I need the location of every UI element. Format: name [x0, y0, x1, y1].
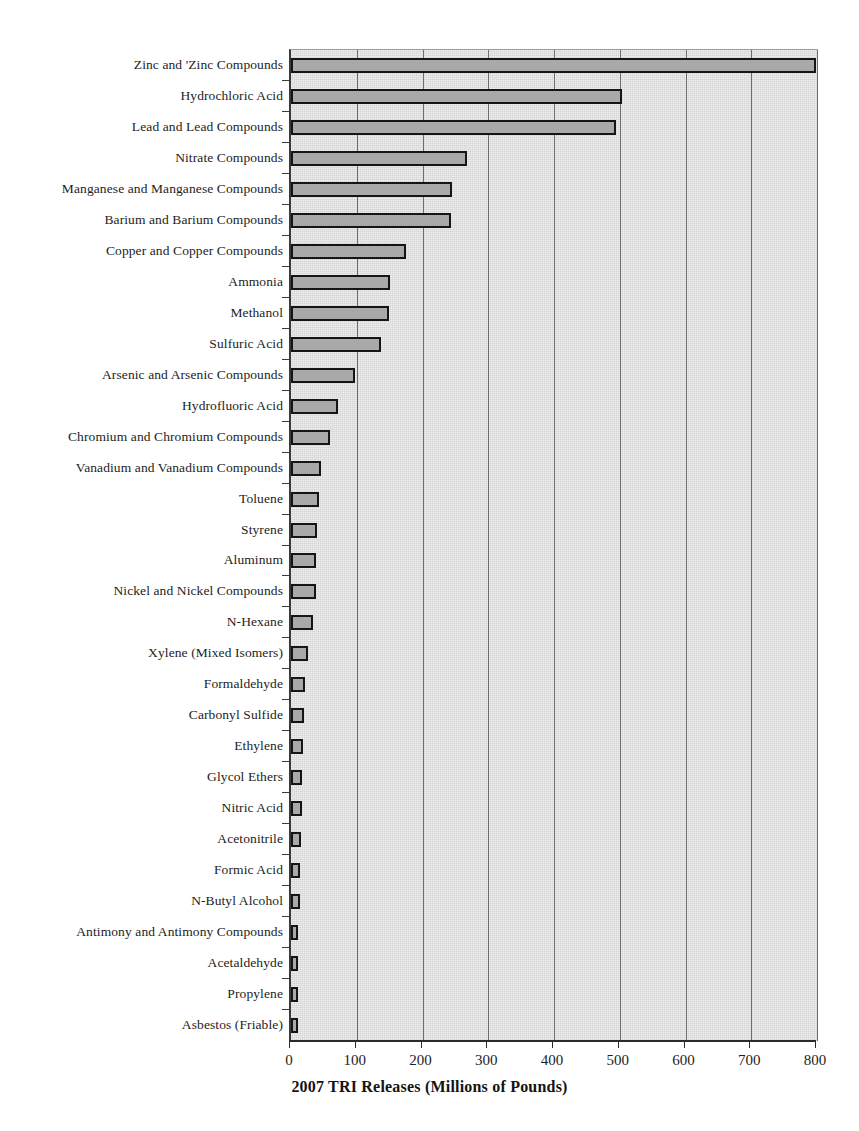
category-label: Ammonia	[9, 274, 289, 289]
bar	[291, 337, 381, 352]
x-tick-label: 500	[588, 1050, 648, 1070]
bar	[291, 832, 301, 847]
x-tick-mark-200	[421, 1041, 422, 1048]
bar	[291, 894, 300, 909]
x-tick-label: 0	[259, 1050, 319, 1070]
x-tick-mark-0	[289, 1041, 290, 1048]
bar-row	[291, 793, 817, 824]
bar-row	[291, 546, 817, 577]
category-label: Toluene	[9, 491, 289, 506]
category-label: Glycol Ethers	[9, 769, 289, 784]
category-label: Barium and Barium Compounds	[9, 212, 289, 227]
bar-row	[291, 917, 817, 948]
bar	[291, 1018, 298, 1033]
bar-row	[291, 50, 817, 81]
category-label: Formaldehyde	[9, 676, 289, 691]
x-tick-mark-300	[486, 1041, 487, 1048]
category-label: Ethylene	[9, 738, 289, 753]
category-label: Styrene	[9, 522, 289, 537]
bar-row	[291, 515, 817, 546]
bar	[291, 244, 406, 259]
bar	[291, 863, 300, 878]
bar-row	[291, 669, 817, 700]
x-tick-label: 600	[654, 1050, 714, 1070]
bar	[291, 89, 622, 104]
category-label: Zinc and 'Zinc Compounds	[9, 57, 289, 72]
bar-row	[291, 855, 817, 886]
category-label: Nickel and Nickel Compounds	[9, 583, 289, 598]
x-axis-title: 2007 TRI Releases (Millions of Pounds)	[0, 1078, 859, 1096]
category-label: Methanol	[9, 305, 289, 320]
category-label: Carbonyl Sulfide	[9, 707, 289, 722]
category-label: N-Butyl Alcohol	[9, 893, 289, 908]
bar-row	[291, 422, 817, 453]
bar	[291, 987, 298, 1002]
category-label: Hydrofluoric Acid	[9, 398, 289, 413]
x-tick-mark-800	[815, 1041, 816, 1048]
bar	[291, 523, 317, 538]
bar-chart: Zinc and 'Zinc CompoundsHydrochloric Aci…	[0, 0, 859, 1131]
x-tick-mark-500	[618, 1041, 619, 1048]
x-tick-label: 700	[719, 1050, 779, 1070]
category-label: Lead and Lead Compounds	[9, 119, 289, 134]
x-tick-mark-100	[355, 1041, 356, 1048]
bar-row	[291, 607, 817, 638]
category-label: Propylene	[9, 986, 289, 1001]
bar-row	[291, 453, 817, 484]
category-label: Acetonitrile	[9, 831, 289, 846]
category-label: Arsenic and Arsenic Compounds	[9, 367, 289, 382]
category-label: Nitric Acid	[9, 800, 289, 815]
x-tick-label: 800	[785, 1050, 845, 1070]
category-label: Vanadium and Vanadium Compounds	[9, 460, 289, 475]
bar-row	[291, 112, 817, 143]
bar	[291, 956, 298, 971]
bar-row	[291, 576, 817, 607]
bar	[291, 553, 316, 568]
bar-row	[291, 762, 817, 793]
bar	[291, 275, 390, 290]
gridline-800	[817, 50, 818, 1041]
x-tick-label: 200	[391, 1050, 451, 1070]
x-tick-label: 300	[456, 1050, 516, 1070]
bar-row	[291, 700, 817, 731]
y-axis-category-labels: Zinc and 'Zinc CompoundsHydrochloric Aci…	[0, 49, 289, 1040]
bar	[291, 368, 355, 383]
bar-row	[291, 824, 817, 855]
category-label: Aluminum	[9, 552, 289, 567]
bar	[291, 584, 316, 599]
category-label: Copper and Copper Compounds	[9, 243, 289, 258]
bar-row	[291, 979, 817, 1010]
bar-row	[291, 236, 817, 267]
plot-area	[289, 49, 818, 1041]
bar	[291, 801, 302, 816]
bar	[291, 646, 308, 661]
bar	[291, 461, 321, 476]
bar	[291, 925, 298, 940]
x-axis-tick-labels: 0100200300400500600700800	[0, 1050, 859, 1074]
bar	[291, 399, 338, 414]
bar	[291, 306, 389, 321]
bar	[291, 492, 319, 507]
bar	[291, 739, 303, 754]
bar-row	[291, 267, 817, 298]
bar	[291, 151, 467, 166]
bar	[291, 213, 451, 228]
bar	[291, 182, 452, 197]
bar-row	[291, 1010, 817, 1041]
category-label: Xylene (Mixed Isomers)	[9, 645, 289, 660]
x-tick-label: 100	[325, 1050, 385, 1070]
category-label: Acetaldehyde	[9, 955, 289, 970]
bar	[291, 770, 302, 785]
bar-row	[291, 329, 817, 360]
category-label: Hydrochloric Acid	[9, 88, 289, 103]
bar-row	[291, 143, 817, 174]
category-label: N-Hexane	[9, 614, 289, 629]
bar-row	[291, 484, 817, 515]
bar-row	[291, 205, 817, 236]
x-tick-label: 400	[522, 1050, 582, 1070]
x-tick-mark-600	[684, 1041, 685, 1048]
bar-row	[291, 948, 817, 979]
category-label: Chromium and Chromium Compounds	[9, 429, 289, 444]
x-tick-mark-700	[749, 1041, 750, 1048]
category-label: Antimony and Antimony Compounds	[9, 924, 289, 939]
